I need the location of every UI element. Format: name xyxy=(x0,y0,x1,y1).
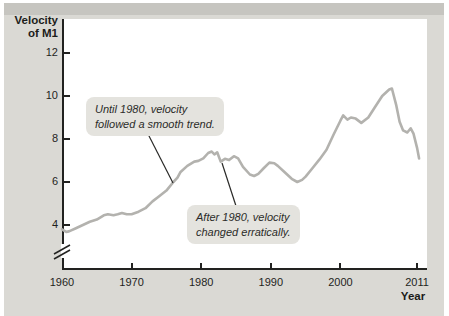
y-axis-title: Velocity of M1 xyxy=(4,14,58,40)
y-axis-title-line2: of M1 xyxy=(4,27,58,40)
y-tick-label: 12 xyxy=(26,46,58,58)
x-tick-mark xyxy=(416,263,418,270)
y-tick-label: 8 xyxy=(26,132,58,144)
x-tick-label: 2000 xyxy=(322,276,358,288)
x-tick-mark xyxy=(200,263,202,270)
annotation-until-line2: followed a smooth trend. xyxy=(95,117,215,132)
annotation-bubble-until-1980: Until 1980, velocity followed a smooth t… xyxy=(86,97,224,136)
y-tick-label: 6 xyxy=(26,175,58,187)
x-tick-label: 1970 xyxy=(114,276,150,288)
y-tick-mark xyxy=(64,181,70,183)
y-tick-mark xyxy=(64,224,70,226)
annotation-until-line1: Until 1980, velocity xyxy=(95,102,215,117)
y-axis-title-line1: Velocity xyxy=(4,14,58,27)
x-tick-label: 2011 xyxy=(399,276,435,288)
x-tick-label: 1980 xyxy=(183,276,219,288)
y-tick-label: 4 xyxy=(26,218,58,230)
x-tick-mark xyxy=(270,263,272,270)
y-tick-mark xyxy=(64,138,70,140)
y-tick-mark xyxy=(64,95,70,97)
annotation-after-line2: changed erratically. xyxy=(196,225,291,240)
figure-top-edge xyxy=(4,3,444,15)
annotation-after-line1: After 1980, velocity xyxy=(196,210,291,225)
x-axis-title: Year xyxy=(392,290,434,302)
x-tick-mark xyxy=(339,263,341,270)
x-tick-mark xyxy=(131,263,133,270)
annotation-bubble-after-1980: After 1980, velocity changed erratically… xyxy=(187,205,300,244)
y-tick-label: 10 xyxy=(26,89,58,101)
x-tick-label: 1960 xyxy=(44,276,80,288)
x-tick-label: 1990 xyxy=(253,276,289,288)
y-tick-mark xyxy=(64,52,70,54)
